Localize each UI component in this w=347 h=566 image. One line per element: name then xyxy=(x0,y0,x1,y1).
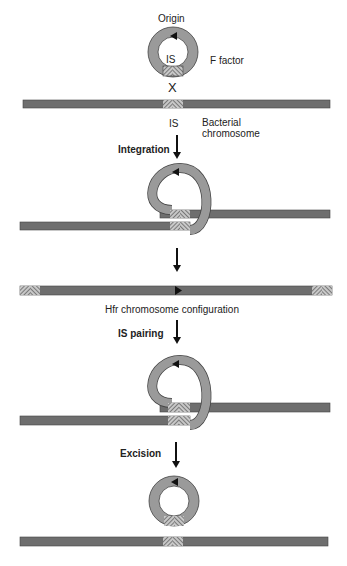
stage-1-chromosome xyxy=(23,100,330,108)
arrow-down-icon xyxy=(173,135,181,159)
is-label-chromosome: IS xyxy=(169,118,178,129)
stage-4-is-pairing xyxy=(20,360,330,425)
bacterial-label: Bacterial xyxy=(202,117,241,128)
stage-5-excised-f-factor xyxy=(149,476,199,526)
is-pairing-label: IS pairing xyxy=(118,328,164,339)
stage-2-integrated xyxy=(20,168,330,230)
hfr-label: Hfr chromosome configuration xyxy=(105,304,239,315)
is-label-plasmid: IS xyxy=(166,54,175,65)
arrow-down-icon xyxy=(173,320,181,344)
chromosome-label: chromosome xyxy=(202,128,260,139)
stage-3-hfr-chromosome xyxy=(20,286,332,295)
stage-1-f-factor xyxy=(148,27,198,77)
crossover-mark: X xyxy=(168,82,177,93)
arrow-down-icon xyxy=(173,248,181,272)
stage-5-chromosome xyxy=(20,537,328,546)
f-factor-label: F factor xyxy=(210,55,244,66)
excision-label: Excision xyxy=(120,448,161,459)
arrow-down-icon xyxy=(172,442,180,468)
integration-label: Integration xyxy=(118,144,170,155)
origin-label: Origin xyxy=(158,13,185,24)
